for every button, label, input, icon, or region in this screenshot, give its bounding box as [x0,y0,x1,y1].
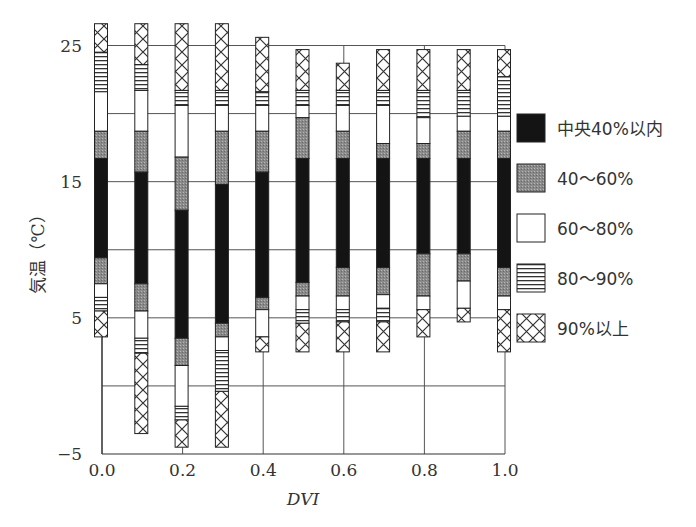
x-tick-label: 0.0 [88,460,115,480]
y-axis-title: 気温（℃） [28,206,48,293]
bar-segment-p80_90 [377,90,390,105]
bar-segment-p40_60 [498,267,511,296]
bar-segment-p80_90 [95,52,108,91]
bar-segment-p90plus [215,24,228,91]
bar-dvi-0.6 [336,63,349,352]
legend-item-p90plus: 90%以上 [517,314,629,342]
bar-segment-p80_90 [457,90,470,116]
bar-segment-p60_80 [256,105,269,131]
legend: 中央40%以内40～60%60～80%80～90%90%以上 [517,114,663,342]
bars [95,24,511,447]
bar-segment-p80_90 [296,90,309,105]
bar-segment-p90plus [417,310,430,337]
bar-segment-p60_80 [417,296,430,310]
bar-segment-p40_60 [135,131,148,172]
bar-segment-p40_60 [377,144,390,159]
bar-segment-central40 [256,172,269,297]
bar-segment-p60_80 [175,105,188,157]
bar-segment-p60_80 [417,118,430,144]
bar-segment-p80_90 [336,310,349,322]
bar-dvi-0.9 [457,50,470,322]
bar-segment-p90plus [498,310,511,352]
bar-segment-p90plus [296,323,309,352]
bar-segment-p40_60 [457,254,470,281]
bar-segment-p40_60 [417,254,430,296]
bar-segment-p40_60 [95,131,108,158]
bar-segment-p40_60 [175,338,188,365]
bar-segment-p40_60 [135,284,148,311]
legend-swatch [517,164,545,192]
bar-segment-p90plus [296,50,309,91]
bar-segment-p60_80 [256,310,269,337]
bar-segment-p90plus [95,311,108,337]
bar-segment-central40 [296,159,309,283]
bar-segment-p40_60 [175,157,188,210]
bar-segment-p80_90 [95,297,108,311]
bar-segment-p40_60 [256,131,269,172]
legend-label: 60～80% [557,219,633,239]
x-tick-label: 0.2 [169,460,196,480]
bar-dvi-0.8 [417,50,430,337]
bar-segment-p60_80 [336,296,349,310]
y-tick-label: 25 [60,36,82,56]
x-tick-label: 0.6 [330,460,357,480]
bar-segment-p90plus [498,50,511,77]
y-tick-label: 5 [71,308,82,328]
x-axis-title: DVI [286,489,320,509]
bar-segment-p60_80 [498,296,511,310]
bar-dvi-1.0 [498,50,511,352]
x-axis-ticks: 0.00.20.40.60.81.0 [88,460,518,480]
bar-segment-p90plus [256,337,269,352]
bar-segment-p90plus [377,322,390,352]
legend-swatch [517,114,545,142]
bar-segment-p90plus [417,50,430,91]
bar-segment-p60_80 [377,295,390,309]
bar-segment-p40_60 [296,118,309,159]
bar-dvi-0.2 [175,24,188,447]
bar-segment-p80_90 [135,65,148,91]
bar-segment-p60_80 [498,116,511,131]
bar-segment-p80_90 [135,338,148,353]
bar-segment-p90plus [175,24,188,91]
legend-item-central40: 中央40%以内 [517,114,663,142]
bar-segment-p40_60 [336,267,349,296]
legend-item-p40_60: 40～60% [517,164,633,192]
bar-segment-p40_60 [256,297,269,309]
bar-segment-p60_80 [336,105,349,131]
bar-dvi-0.1 [135,24,148,434]
bar-segment-central40 [175,210,188,338]
bar-segment-p80_90 [296,310,309,324]
bar-dvi-0.0 [95,24,108,337]
x-tick-label: 0.4 [250,460,277,480]
bar-segment-p90plus [95,24,108,53]
bar-segment-central40 [215,184,228,323]
bar-segment-p80_90 [215,351,228,392]
bar-dvi-0.7 [377,50,390,352]
bar-segment-p90plus [135,353,148,433]
bar-segment-p40_60 [336,131,349,158]
bar-segment-p60_80 [215,337,228,351]
percentile-bar-chart: 25155−5 0.00.20.40.60.81.0 DVI 気温（℃） 中央4… [0,0,696,527]
legend-swatch [517,264,545,292]
bar-segment-p80_90 [175,406,188,420]
bar-segment-p90plus [135,24,148,65]
bar-segment-p40_60 [215,131,228,184]
bar-segment-p60_80 [457,116,470,131]
bar-segment-p40_60 [296,282,309,296]
bar-segment-p40_60 [417,144,430,159]
bar-segment-p60_80 [296,296,309,310]
bar-segment-p90plus [377,50,390,91]
bar-segment-p60_80 [175,365,188,406]
bar-segment-p80_90 [175,90,188,105]
bar-dvi-0.5 [296,50,309,352]
bar-dvi-0.4 [256,37,269,352]
bar-segment-p60_80 [95,284,108,298]
bar-segment-p40_60 [457,131,470,158]
y-tick-label: 15 [60,172,82,192]
bar-segment-p60_80 [377,105,390,143]
bar-segment-central40 [336,159,349,268]
legend-label: 80～90% [557,269,633,289]
x-tick-label: 1.0 [491,460,518,480]
bar-dvi-0.3 [215,24,228,447]
bar-segment-p90plus [256,37,269,91]
